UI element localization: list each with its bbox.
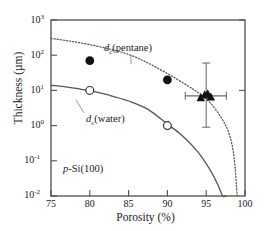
x-tick-label-85: 85 [116, 198, 142, 209]
y-exp-1em1: -1 [34, 153, 40, 161]
x-tick-label-100: 100 [232, 198, 258, 209]
y-axis-right-ticks [239, 20, 245, 90]
open-circle-marker [164, 122, 172, 130]
x-tick-label-90: 90 [154, 198, 180, 209]
pentane-label-paren: (pentane) [112, 42, 152, 53]
sample-label-rest: -Si(100) [68, 163, 103, 174]
x-tick-label-80: 80 [77, 198, 103, 209]
open-circle-marker [86, 87, 94, 95]
pentane-curve-label: dc(pentane) [104, 42, 152, 53]
y-exp-1e1: 1 [41, 83, 45, 91]
chart-figure: 103 102 101 100 10-1 10-2 75 80 85 90 95… [0, 0, 266, 231]
water-leader-line [76, 100, 84, 113]
sample-label: p-Si(100) [63, 163, 103, 174]
x-tick-label-75: 75 [38, 198, 64, 209]
x-tick-label-95: 95 [193, 198, 219, 209]
y-exp-1e0: 0 [41, 118, 45, 126]
y-exp-1e3: 3 [41, 13, 45, 21]
y-axis-ticks [51, 20, 57, 196]
filled-circle-marker [85, 56, 94, 65]
annotation-leader-lines [76, 55, 131, 113]
y-exp-1em2: -2 [34, 188, 40, 196]
x-axis-title: Porosity (%) [45, 211, 246, 223]
water-curve-label: dc(water) [86, 113, 125, 124]
filled-circle-marker [163, 75, 172, 84]
y-axis-title: Thickness (µm) [12, 18, 24, 158]
x-axis-ticks [51, 190, 245, 196]
water-label-paren: (water) [94, 113, 124, 124]
y-tick-label-1em2: 10-2 [10, 189, 40, 200]
y-exp-1e2: 2 [41, 48, 45, 56]
